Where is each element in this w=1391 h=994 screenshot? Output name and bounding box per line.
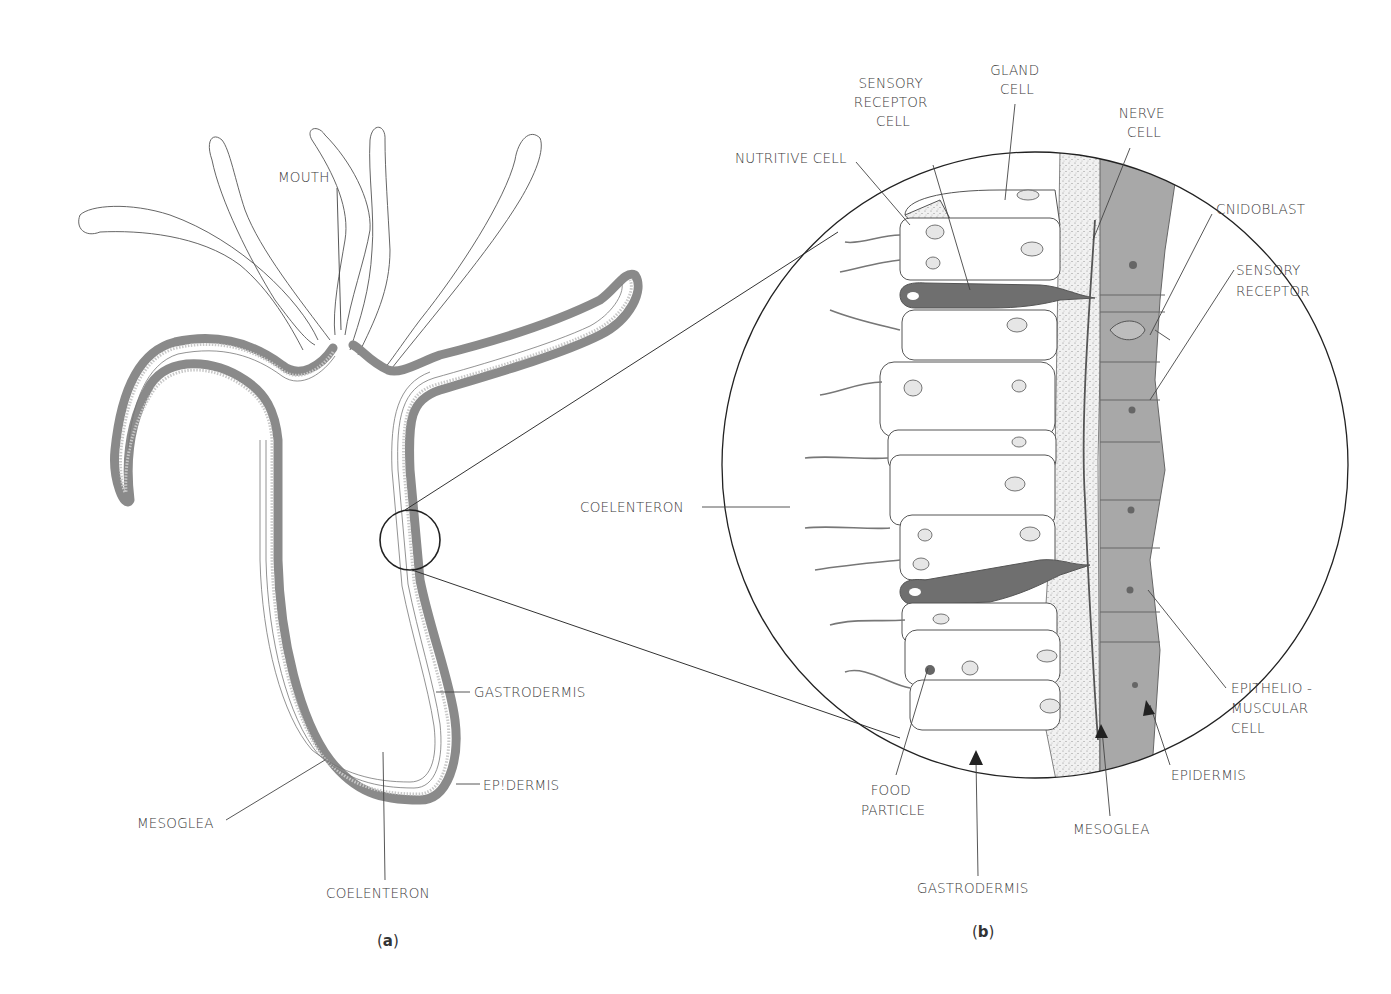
label-nerve-cell: NERVE CELL <box>1119 105 1170 140</box>
leader-gastrodermis-b <box>976 760 978 876</box>
label-mesoglea-a: MESOGLEA <box>137 815 214 831</box>
label-cnidoblast: CNIDOBLAST <box>1216 201 1305 217</box>
panel-b-section: SENSORY RECEPTOR CELL GLAND CELL NERVE C… <box>580 62 1348 941</box>
label-sensory-receptor-cell: SENSORY RECEPTOR CELL <box>854 75 932 129</box>
panel-caption-a: (a) <box>377 932 399 950</box>
leader-epitheliomuscular <box>1148 590 1226 688</box>
label-epidermis-b: EPIDERMIS <box>1171 767 1246 783</box>
leader-nutritive-cell <box>856 162 910 225</box>
label-gland-cell: GLAND CELL <box>990 62 1044 97</box>
tentacle-left <box>79 206 318 350</box>
arrow-gastrodermis-b <box>969 750 983 765</box>
panel-caption-b: (b) <box>972 923 994 941</box>
leader-gland-cell <box>1005 104 1015 200</box>
projection-line-top <box>405 232 838 510</box>
leader-mouth <box>337 188 341 330</box>
label-food-particle: FOOD PARTICLE <box>861 782 925 818</box>
label-sensory-receptor: SENSORY RECEPTOR <box>1236 262 1310 299</box>
label-coelenteron-a: COELENTERON <box>326 885 430 901</box>
label-coelenteron-b: COELENTERON <box>580 499 684 515</box>
label-epitheliomuscular-cell: EPITHELIO - MUSCULAR CELL <box>1231 680 1317 736</box>
label-mouth: MOUTH <box>278 169 330 185</box>
label-gastrodermis-b: GASTRODERMIS <box>917 880 1028 896</box>
label-epidermis-a: EP!DERMIS <box>483 777 559 793</box>
body-wall-epidermis <box>115 274 639 800</box>
leader-coelenteron-a <box>383 752 385 880</box>
panel-a-hydra: MOUTH GASTRODERMIS EP!DERMIS MESOGLEA CO… <box>79 127 900 950</box>
label-gastrodermis-a: GASTRODERMIS <box>474 684 585 700</box>
tentacle-mid-right <box>350 127 390 355</box>
hydra-diagram: MOUTH GASTRODERMIS EP!DERMIS MESOGLEA CO… <box>0 0 1391 994</box>
leader-mesoglea-a <box>226 760 325 820</box>
projection-line-bottom <box>412 570 900 738</box>
label-nutritive-cell: NUTRITIVE CELL <box>735 150 847 166</box>
label-mesoglea-b: MESOGLEA <box>1073 821 1150 837</box>
epidermis-layer <box>1100 150 1180 800</box>
